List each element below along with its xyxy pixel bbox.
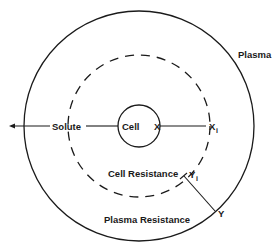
solute-arrowhead-icon [9,124,15,129]
solute-label: Solute [52,121,81,132]
cell-resistance-label: Cell Resistance [108,168,178,179]
yi-to-y-line [184,176,215,211]
x-label: X [154,121,161,132]
xi-label: X [209,121,216,132]
plasma-label: Plasma [238,49,272,60]
diagram-canvas: Plasma Solute Cell X X i Cell Resistance… [0,0,279,247]
y-label: Y [218,208,225,219]
yi-subscript: i [196,175,198,182]
xi-subscript: i [216,127,218,134]
plasma-resistance-label: Plasma Resistance [104,214,190,225]
yi-label: Y [189,169,196,180]
cell-label: Cell [122,121,139,132]
